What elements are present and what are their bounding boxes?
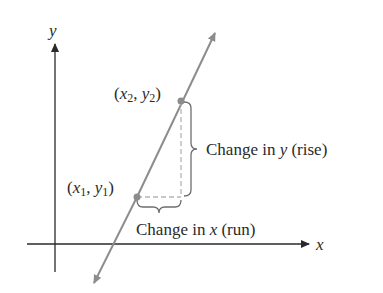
point-2 [178, 98, 185, 105]
rise-annotation: Change in y (rise) [206, 140, 327, 159]
point-1 [134, 194, 141, 201]
point-2-label: (x2, y2) [114, 84, 161, 105]
point-1-label: (x1, y1) [67, 178, 114, 199]
run-annotation: Change in x (run) [136, 220, 255, 239]
run-brace [137, 200, 181, 213]
sloped-line [137, 33, 215, 197]
y-axis-label: y [47, 21, 57, 40]
x-axis-label: x [315, 235, 324, 254]
rise-brace [184, 102, 197, 196]
slope-diagram: y x (x2, y2) (x1, y1) Change in y (rise)… [0, 0, 383, 293]
sloped-line-lower [94, 197, 137, 283]
